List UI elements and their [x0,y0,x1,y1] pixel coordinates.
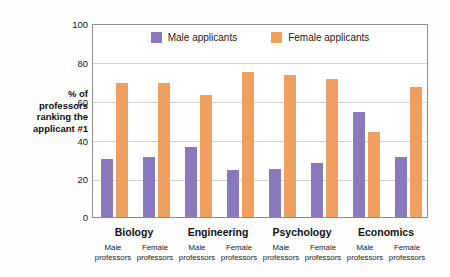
x-axis-sub-label: Female professors [377,243,437,262]
bar-female-applicants [326,79,338,217]
x-axis-group-label: Economics [341,226,431,238]
bar-male-applicants [311,163,323,217]
y-axis-title: % of professors ranking the applicant #1 [6,88,88,134]
bars-layer [93,25,427,217]
y-tick-label-80: 80 [58,58,88,69]
plot-area [92,24,428,218]
bar-male-applicants [185,147,197,217]
bar-female-applicants [242,72,254,218]
chart-canvas: % of professors ranking the applicant #1… [0,0,450,277]
chart-legend: Male applicants Female applicants [92,27,428,47]
y-tick-label-20: 20 [58,174,88,185]
legend-swatch-female-icon [271,32,282,43]
bar-female-applicants [410,87,422,217]
x-axis-group-label: Engineering [173,226,263,238]
legend-label-male-applicants: Male applicants [168,32,237,43]
x-axis-group-label: Psychology [257,226,347,238]
bar-male-applicants [269,169,281,218]
y-tick-label-40: 40 [58,136,88,147]
bar-male-applicants [353,112,365,217]
bar-male-applicants [101,159,113,217]
y-tick-label-0: 0 [58,212,88,223]
bar-male-applicants [395,157,407,217]
y-tick-label-60: 60 [58,97,88,108]
legend-swatch-male-icon [151,32,162,43]
legend-label-female-applicants: Female applicants [288,32,369,43]
bar-female-applicants [116,83,128,217]
bar-female-applicants [200,95,212,217]
bar-female-applicants [368,132,380,217]
bar-male-applicants [143,157,155,217]
x-axis-group-label: Biology [89,226,179,238]
bar-female-applicants [284,75,296,217]
legend-item-female-applicants: Female applicants [271,32,369,43]
legend-item-male-applicants: Male applicants [151,32,237,43]
bar-female-applicants [158,83,170,217]
y-tick-label-100: 100 [58,19,88,30]
bar-male-applicants [227,170,239,217]
